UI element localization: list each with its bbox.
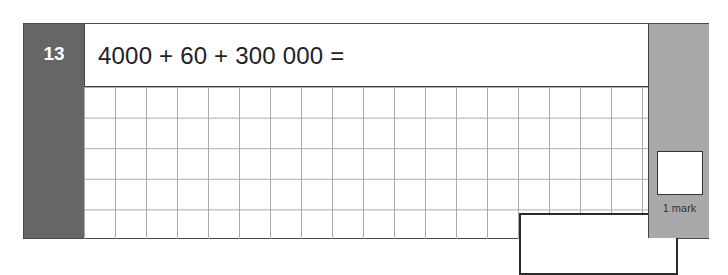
working-grid[interactable] (84, 87, 648, 239)
mark-label: 1 mark (649, 202, 710, 214)
mark-panel: 1 mark (648, 24, 709, 238)
question-number-panel: 13 (24, 24, 85, 238)
question-number: 13 (24, 43, 84, 65)
question-prompt-row: 4000 + 60 + 300 000 = (84, 24, 648, 87)
question-prompt: 4000 + 60 + 300 000 = (98, 42, 344, 70)
mark-box (657, 151, 703, 195)
question-card: 13 4000 + 60 + 300 000 = 1 mark (23, 23, 709, 239)
